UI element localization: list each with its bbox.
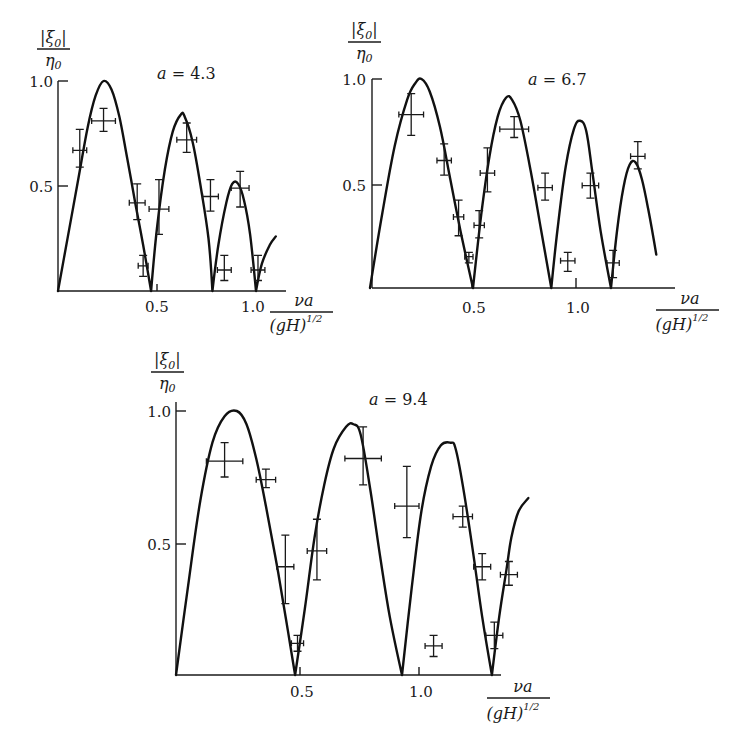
svg-text:(gH)1/2: (gH)1/2 xyxy=(656,312,709,334)
measured-points xyxy=(73,108,265,280)
theory-curve xyxy=(58,81,276,291)
svg-text:νa: νa xyxy=(513,677,532,696)
error-bar-point xyxy=(474,211,484,238)
x-tick-label: 0.5 xyxy=(290,683,314,701)
svg-text:|ξ0|: |ξ0| xyxy=(40,28,67,50)
figure-svg: |ξ0| η0 a = 4.3 1.0 0.5 0.5 1.0 νa (gH)1… xyxy=(0,0,741,746)
x-axis-label: νa (gH)1/2 xyxy=(656,289,719,334)
theory-curve xyxy=(176,410,528,675)
y-tick-label: 1.0 xyxy=(342,71,366,89)
x-tick-label: 0.5 xyxy=(462,299,486,317)
svg-text:η0: η0 xyxy=(356,44,373,65)
error-bar-point xyxy=(399,94,424,136)
y-tick-label: 0.5 xyxy=(342,177,366,195)
error-bar-point xyxy=(277,535,294,604)
error-bar-point xyxy=(486,622,503,648)
error-bar-point xyxy=(231,171,249,207)
x-axis-label: νa (gH)1/2 xyxy=(487,677,550,723)
svg-text:|ξ0|: |ξ0| xyxy=(351,20,378,42)
error-bar-point xyxy=(425,635,442,656)
y-axis-label: |ξ0| η0 xyxy=(37,28,70,72)
svg-text:|ξ0|: |ξ0| xyxy=(154,350,181,372)
error-bar-point xyxy=(395,466,419,537)
svg-text:η0: η0 xyxy=(159,374,176,395)
y-tick-label: 0.5 xyxy=(29,178,53,196)
x-tick-label: 1.0 xyxy=(409,683,433,701)
error-bar-point xyxy=(480,148,494,192)
error-bar-point xyxy=(92,108,116,131)
figure: |ξ0| η0 a = 4.3 1.0 0.5 0.5 1.0 νa (gH)1… xyxy=(0,0,741,746)
y-axis-label: |ξ0| η0 xyxy=(348,20,381,65)
x-tick-label: 1.0 xyxy=(566,299,590,317)
y-tick-label: 1.0 xyxy=(29,73,53,91)
panel-a-4-3: |ξ0| η0 a = 4.3 1.0 0.5 0.5 1.0 νa (gH)1… xyxy=(29,28,333,335)
x-tick-label: 1.0 xyxy=(241,298,265,316)
x-axis-label: νa (gH)1/2 xyxy=(270,291,333,335)
panel-a-6-7: |ξ0| η0 a = 6.7 1.0 0.5 0.5 1.0 νa (gH)1… xyxy=(342,20,719,334)
y-tick-label: 1.0 xyxy=(147,403,171,421)
y-tick-label: 0.5 xyxy=(147,536,171,554)
error-bar-point xyxy=(561,252,575,271)
svg-text:η0: η0 xyxy=(45,51,62,72)
panel-title: a = 4.3 xyxy=(157,64,216,83)
svg-text:νa: νa xyxy=(294,291,313,310)
svg-text:νa: νa xyxy=(680,289,699,308)
svg-text:(gH)1/2: (gH)1/2 xyxy=(270,313,323,335)
error-bar-point xyxy=(149,180,169,235)
error-bar-point xyxy=(217,255,231,280)
panel-a-9-4: |ξ0| η0 a = 9.4 1.0 0.5 0.5 1.0 νa (gH)1… xyxy=(147,350,550,723)
measured-points xyxy=(399,94,645,278)
panel-title: a = 9.4 xyxy=(369,390,428,409)
error-bar-point xyxy=(345,427,381,485)
error-bar-point xyxy=(500,561,517,585)
y-axis-label: |ξ0| η0 xyxy=(151,350,184,395)
panel-title: a = 6.7 xyxy=(528,70,587,89)
x-tick-label: 0.5 xyxy=(145,298,169,316)
error-bar-point xyxy=(631,142,645,169)
error-bar-point xyxy=(538,173,552,200)
svg-text:(gH)1/2: (gH)1/2 xyxy=(487,701,540,723)
